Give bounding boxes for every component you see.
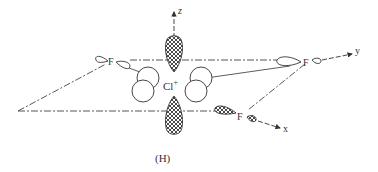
cl-charge: +: [173, 78, 178, 87]
f-right-label: F: [303, 57, 309, 68]
y-axis-label: y: [355, 45, 360, 56]
cl-label: Cl+: [163, 78, 178, 92]
z-axis-label: z: [177, 5, 182, 16]
x-axis: [258, 121, 280, 128]
y-axis: [322, 54, 352, 60]
x-axis-label: x: [283, 123, 288, 134]
coordinate-plane: [18, 60, 305, 111]
f-front-label: F: [237, 111, 243, 122]
f-right-orbital: [277, 57, 321, 66]
figure-caption: (H): [155, 152, 171, 165]
orbital-diagram: z y x F F F Cl+ (H): [0, 0, 378, 172]
f-left-label: F: [108, 56, 114, 67]
